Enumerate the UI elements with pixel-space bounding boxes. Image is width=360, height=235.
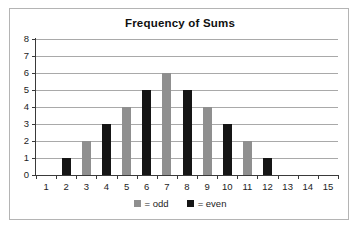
- legend-label-even: = even: [198, 199, 227, 209]
- gridline-8: [36, 39, 338, 40]
- x-tick-edge-10: [217, 175, 218, 179]
- bar-8: [183, 90, 192, 175]
- y-tick-7: [32, 56, 36, 57]
- bar-12: [263, 158, 272, 175]
- legend-swatch-even-icon: [187, 200, 194, 207]
- x-axis-label-12: 12: [258, 182, 278, 192]
- y-tick-4: [32, 107, 36, 108]
- x-tick-edge-13: [278, 175, 279, 179]
- bar-10: [223, 124, 232, 175]
- x-axis-label-4: 4: [96, 182, 116, 192]
- legend-label-odd: = odd: [145, 199, 169, 209]
- bar-4: [102, 124, 111, 175]
- bar-6: [142, 90, 151, 175]
- x-axis-label-9: 9: [197, 182, 217, 192]
- x-axis-label-14: 14: [298, 182, 318, 192]
- x-tick-edge-1: [36, 175, 37, 179]
- bar-2: [62, 158, 71, 175]
- bar-5: [122, 107, 131, 175]
- legend-entry-odd: = odd: [134, 199, 169, 209]
- y-tick-5: [32, 90, 36, 91]
- x-tick-edge-4: [96, 175, 97, 179]
- x-axis-label-5: 5: [117, 182, 137, 192]
- x-tick-edge-11: [237, 175, 238, 179]
- bar-3: [82, 141, 91, 175]
- x-tick-edge-15: [318, 175, 319, 179]
- x-tick-edge-9: [197, 175, 198, 179]
- y-axis-label-1: 1: [14, 153, 29, 163]
- x-axis-label-2: 2: [56, 182, 76, 192]
- chart-legend: = odd= even: [10, 199, 350, 209]
- legend-entry-even: = even: [187, 199, 227, 209]
- y-tick-3: [32, 124, 36, 125]
- x-tick-edge-3: [76, 175, 77, 179]
- y-tick-8: [32, 39, 36, 40]
- gridline-7: [36, 56, 338, 57]
- x-axis-label-15: 15: [318, 182, 338, 192]
- gridline-6: [36, 73, 338, 74]
- x-tick-edge-5: [117, 175, 118, 179]
- x-tick-edge-6: [137, 175, 138, 179]
- y-tick-2: [32, 141, 36, 142]
- y-axis-label-2: 2: [14, 136, 29, 146]
- x-axis-label-11: 11: [237, 182, 257, 192]
- x-axis-label-6: 6: [137, 182, 157, 192]
- x-axis-label-1: 1: [36, 182, 56, 192]
- x-axis-label-13: 13: [278, 182, 298, 192]
- legend-swatch-odd-icon: [134, 200, 141, 207]
- x-tick-edge-14: [298, 175, 299, 179]
- x-tick-edge-8: [177, 175, 178, 179]
- x-tick-edge-7: [157, 175, 158, 179]
- y-axis-label-4: 4: [14, 102, 29, 112]
- y-axis-label-0: 0: [14, 170, 29, 180]
- x-tick-edge-2: [56, 175, 57, 179]
- x-axis-label-10: 10: [217, 182, 237, 192]
- bar-7: [162, 73, 171, 175]
- bar-11: [243, 141, 252, 175]
- x-axis-label-8: 8: [177, 182, 197, 192]
- plot-area: 012345678 123456789101112131415: [36, 39, 338, 175]
- x-axis-label-3: 3: [76, 182, 96, 192]
- x-axis: 123456789101112131415: [36, 175, 338, 201]
- x-tick-edge-12: [257, 175, 258, 179]
- y-tick-1: [32, 158, 36, 159]
- chart-title: Frequency of Sums: [10, 17, 350, 29]
- x-axis-label-7: 7: [157, 182, 177, 192]
- chart-frame: Frequency of Sums 012345678 123456789101…: [9, 8, 349, 220]
- y-axis-label-3: 3: [14, 119, 29, 129]
- y-axis-label-6: 6: [14, 68, 29, 78]
- y-axis-label-5: 5: [14, 85, 29, 95]
- bar-9: [203, 107, 212, 175]
- y-tick-6: [32, 73, 36, 74]
- x-tick-edge-end: [338, 175, 339, 179]
- y-axis-label-8: 8: [14, 34, 29, 44]
- y-axis-label-7: 7: [14, 51, 29, 61]
